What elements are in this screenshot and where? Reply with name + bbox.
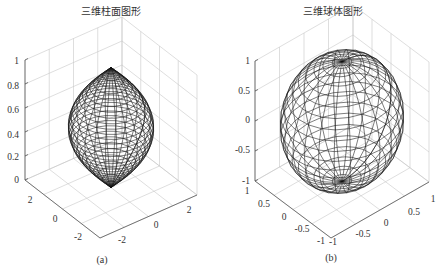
x-tick-label: 2 xyxy=(187,205,192,215)
y-tick-label: 2 xyxy=(28,195,33,205)
figure: 三维柱面图形 1 0.8 0.6 0.4 0.2 0 2 0 -2 -2 0 2… xyxy=(0,0,444,269)
y-tick-label: -2 xyxy=(74,232,82,242)
panel-b: 三维球体图形 1 0.5 0 -0.5 -1 1 0.5 0 -0.5 -1 -… xyxy=(235,5,436,264)
panel-a: 三维柱面图形 1 0.8 0.6 0.4 0.2 0 2 0 -2 -2 0 2… xyxy=(7,5,197,266)
x-tick-label: -1 xyxy=(329,237,337,247)
z-tick-label: 0.2 xyxy=(7,152,19,162)
x-tick-label: 1 xyxy=(431,194,436,204)
z-tick-label: 0.5 xyxy=(238,86,250,96)
panel-a-title: 三维柱面图形 xyxy=(81,5,141,17)
z-tick-label: -1 xyxy=(242,176,250,186)
x-tick-label: 0 xyxy=(154,220,159,230)
x-tick-label: -2 xyxy=(118,235,126,245)
panel-b-caption: (b) xyxy=(325,252,337,264)
x-tick-label: -0.5 xyxy=(355,229,370,239)
z-tick-label: 1 xyxy=(14,56,19,66)
y-tick-label: -0.5 xyxy=(294,224,309,234)
y-tick-label: -1 xyxy=(317,236,325,246)
z-tick-label: 1 xyxy=(245,56,250,66)
z-tick-label: 0.6 xyxy=(7,105,19,115)
y-tick-label: 0 xyxy=(282,212,287,222)
x-tick-label: 0.5 xyxy=(408,207,420,217)
x-tick-label: 0 xyxy=(384,218,389,228)
y-tick-label: 1 xyxy=(245,186,250,196)
z-tick-label: 0 xyxy=(14,175,19,185)
panel-a-axes-grid xyxy=(25,17,197,238)
y-tick-label: 0.5 xyxy=(258,199,270,209)
y-tick-label: 0 xyxy=(53,214,58,224)
panel-a-caption: (a) xyxy=(96,254,107,266)
z-tick-label: 0 xyxy=(245,115,250,125)
panel-b-title: 三维球体图形 xyxy=(303,5,363,17)
z-tick-label: -0.5 xyxy=(235,145,250,155)
z-tick-label: 0.4 xyxy=(7,130,19,140)
z-tick-label: 0.8 xyxy=(7,81,19,91)
